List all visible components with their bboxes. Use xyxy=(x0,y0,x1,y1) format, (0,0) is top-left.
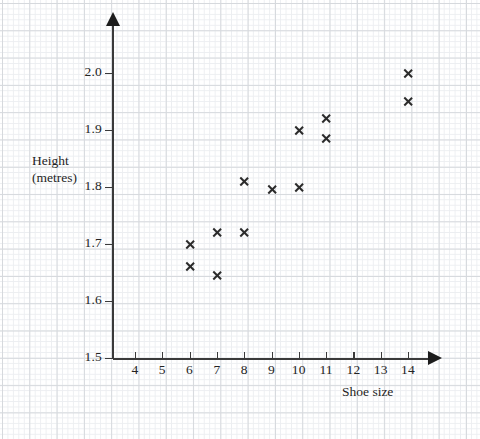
x-axis-arrow-icon xyxy=(428,351,442,365)
data-point-marker xyxy=(321,133,332,144)
x-axis-tick xyxy=(353,352,354,359)
data-point-marker xyxy=(211,270,222,281)
x-axis-tick xyxy=(381,352,382,359)
y-axis-tick-label: 1.5 xyxy=(58,349,102,365)
y-axis-tick xyxy=(105,358,113,359)
data-point-marker xyxy=(321,113,332,124)
y-axis-title-line-1: Height xyxy=(32,152,77,169)
x-axis-tick xyxy=(162,352,163,359)
x-axis-tick xyxy=(299,352,300,359)
data-point-marker xyxy=(293,182,304,193)
x-axis-tick xyxy=(190,352,191,359)
x-axis-title: Shoe size xyxy=(342,384,393,400)
data-point-marker xyxy=(211,227,222,238)
y-axis-tick xyxy=(105,187,113,188)
x-axis-tick xyxy=(135,352,136,359)
data-point-marker xyxy=(239,227,250,238)
x-axis-tick xyxy=(408,352,409,359)
scatter-plot-figure: 4567891011121314 1.51.61.71.81.92.0 Heig… xyxy=(0,0,480,439)
x-axis-tick xyxy=(244,352,245,359)
top-caption xyxy=(0,0,480,5)
x-axis-tick xyxy=(217,352,218,359)
y-axis-tick-label: 1.9 xyxy=(58,121,102,137)
data-point-marker xyxy=(293,125,304,136)
data-point-marker xyxy=(239,176,250,187)
x-axis-tick-label: 14 xyxy=(388,362,428,378)
y-axis-tick-label: 2.0 xyxy=(58,64,102,80)
y-axis-tick-label: 1.6 xyxy=(58,292,102,308)
y-axis-arrow-icon xyxy=(106,12,120,26)
y-axis-tick xyxy=(105,73,113,74)
y-axis-tick-label: 1.7 xyxy=(58,235,102,251)
data-point-marker xyxy=(184,239,195,250)
x-axis-tick xyxy=(272,352,273,359)
data-point-marker xyxy=(403,96,414,107)
data-point-marker xyxy=(266,184,277,195)
y-axis-tick xyxy=(105,130,113,131)
data-point-marker xyxy=(403,68,414,79)
y-axis-tick xyxy=(105,301,113,302)
y-axis-tick xyxy=(105,244,113,245)
y-axis-title: Height (metres) xyxy=(32,152,77,186)
y-axis-title-line-2: (metres) xyxy=(32,169,77,186)
x-axis-tick xyxy=(326,352,327,359)
data-point-marker xyxy=(184,261,195,272)
